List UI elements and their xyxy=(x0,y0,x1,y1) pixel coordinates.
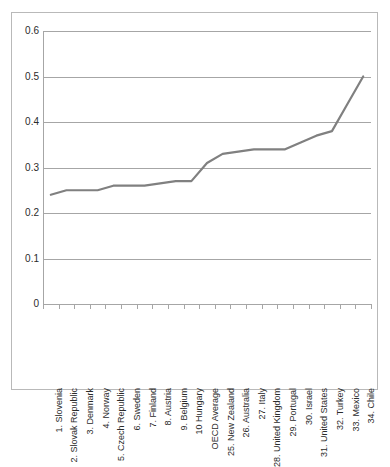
y-axis-tick-label: 0.1 xyxy=(25,254,39,264)
x-axis-tick xyxy=(168,304,169,309)
x-axis-tick-label: 31. United States xyxy=(320,388,329,457)
x-axis-tick xyxy=(121,304,122,309)
x-axis-tick xyxy=(59,304,60,309)
x-axis-tick xyxy=(277,304,278,309)
x-axis-tick-label: 34. Chile xyxy=(367,388,376,424)
x-axis-tick-label: 32. Turkey xyxy=(336,388,345,430)
x-axis-tick-label: 30. Israel xyxy=(305,388,314,425)
x-axis-tick-label: 1. Slovenia xyxy=(55,388,64,433)
x-axis-tick xyxy=(152,304,153,309)
x-axis-tick-label: 7. Finland xyxy=(149,388,158,428)
x-axis-tick-label: 2. Slovak Republic xyxy=(70,388,79,463)
y-axis-tick-label: 0 xyxy=(33,299,39,309)
y-axis-tick-label: 0.2 xyxy=(25,208,39,218)
x-axis-tick xyxy=(293,304,294,309)
x-axis-tick xyxy=(90,304,91,309)
x-axis-tick-label: 6. Sweden xyxy=(133,388,142,431)
x-axis-tick xyxy=(340,304,341,309)
x-axis-tick xyxy=(246,304,247,309)
x-axis-tick xyxy=(74,304,75,309)
x-axis-tick xyxy=(230,304,231,309)
chart-plot-stack: 00.10.20.30.40.50.6 1. Slovenia2. Slovak… xyxy=(12,13,377,389)
x-axis-tick xyxy=(43,304,44,309)
series-polyline xyxy=(51,77,363,195)
x-axis-tick xyxy=(184,304,185,309)
y-axis-tick-label: 0.4 xyxy=(25,117,39,127)
x-axis-tick xyxy=(371,304,372,309)
x-axis-tick-label: 9. Belgium xyxy=(180,388,189,431)
y-axis-tick-labels: 00.10.20.30.40.50.6 xyxy=(12,13,39,391)
x-axis-tick-label: 3. Denmark xyxy=(86,388,95,435)
x-axis-tick xyxy=(324,304,325,309)
x-axis-tick-label: 25. New Zealand xyxy=(227,388,236,456)
x-axis-tick xyxy=(199,304,200,309)
y-axis-tick-label: 0.3 xyxy=(25,163,39,173)
y-axis-tick-label: 0.6 xyxy=(25,26,39,36)
chart-frame: 00.10.20.30.40.50.6 1. Slovenia2. Slovak… xyxy=(11,12,378,390)
x-axis-tick xyxy=(215,304,216,309)
x-axis-tick-labels: 1. Slovenia2. Slovak Republic3. Denmark4… xyxy=(43,310,371,390)
x-axis-tick-label: 29. Portugal xyxy=(289,388,298,437)
x-axis-tick-label: 4. Norway xyxy=(102,388,111,429)
y-axis-tick-label: 0.5 xyxy=(25,72,39,82)
x-axis-tick xyxy=(309,304,310,309)
x-axis-ticks xyxy=(43,304,371,309)
x-axis-tick-label: 28. United Kingdom xyxy=(273,388,282,467)
x-axis-tick xyxy=(355,304,356,309)
x-axis-tick xyxy=(137,304,138,309)
x-axis-tick-label: 26. Australia xyxy=(242,388,251,438)
x-axis-tick-label: 5. Czech Republic xyxy=(117,388,126,461)
x-axis-tick xyxy=(262,304,263,309)
x-axis-tick-label: 10 Hungary xyxy=(195,388,204,435)
x-axis-tick xyxy=(105,304,106,309)
x-axis-tick-label: 27. Italy xyxy=(258,388,267,420)
plot-area xyxy=(43,31,371,304)
line-series xyxy=(43,31,371,304)
x-axis-tick-label: 33. Mexico xyxy=(352,388,361,432)
x-axis-tick-label: OECD Average xyxy=(211,388,220,449)
x-axis-tick-label: 8. Austria xyxy=(164,388,173,426)
